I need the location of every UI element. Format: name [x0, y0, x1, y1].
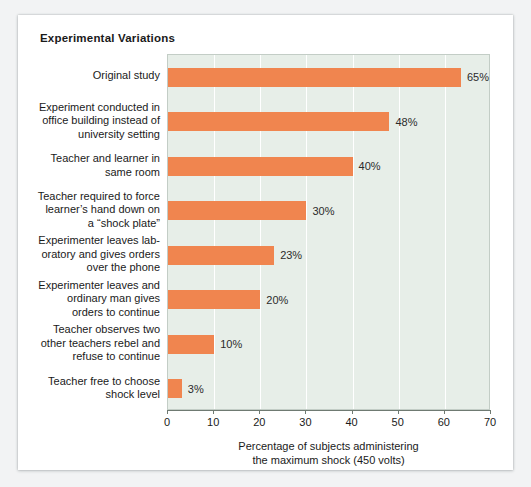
- bar: [168, 157, 353, 176]
- x-axis-tick: [444, 410, 445, 414]
- chart-title: Experimental Variations: [40, 32, 175, 44]
- category-axis-labels: Original studyExperiment conducted inoff…: [32, 54, 160, 410]
- category-label: Experimenter leaves andordinary man give…: [32, 279, 160, 320]
- x-axis-tick-label: 40: [345, 416, 357, 428]
- x-axis-tick: [305, 410, 306, 414]
- bar: [168, 201, 306, 220]
- x-axis-tick: [352, 410, 353, 414]
- x-axis-tick-label: 60: [438, 416, 450, 428]
- bar: [168, 112, 389, 131]
- category-label: Teacher free to chooseshock level: [32, 374, 160, 401]
- x-axis-tick: [167, 410, 168, 414]
- bar-row: 3%: [168, 379, 489, 398]
- bar: [168, 68, 461, 87]
- bar-row: 40%: [168, 157, 489, 176]
- bar-row: 48%: [168, 112, 489, 131]
- category-label: Teacher observes twoother teachers rebel…: [32, 323, 160, 364]
- x-axis-tick-label: 0: [164, 416, 170, 428]
- category-label: Experimenter leaves lab-oratory and give…: [32, 234, 160, 275]
- x-axis-title: Percentage of subjects administeringthe …: [167, 440, 490, 467]
- bar-value-label: 65%: [467, 71, 489, 83]
- bar-value-label: 40%: [359, 160, 381, 172]
- x-axis-tick-label: 70: [484, 416, 496, 428]
- x-axis-tick-label: 20: [253, 416, 265, 428]
- bar-value-label: 3%: [188, 383, 204, 395]
- x-axis-tick: [490, 410, 491, 414]
- x-axis-tick: [259, 410, 260, 414]
- bar-value-label: 48%: [395, 116, 417, 128]
- bar-row: 10%: [168, 335, 489, 354]
- bar-series: 65%48%40%30%23%20%10%3%: [168, 55, 489, 409]
- x-axis: 010203040506070: [167, 410, 490, 411]
- bar: [168, 290, 260, 309]
- x-axis-tick-label: 10: [207, 416, 219, 428]
- bar-value-label: 20%: [266, 294, 288, 306]
- bar-row: 30%: [168, 201, 489, 220]
- page-background: Experimental Variations Original studyEx…: [0, 0, 531, 487]
- bar-value-label: 10%: [220, 338, 242, 350]
- category-label: Teacher required to forcelearner’s hand …: [32, 190, 160, 231]
- bar: [168, 335, 214, 354]
- bar-row: 23%: [168, 246, 489, 265]
- category-label: Original study: [32, 70, 160, 84]
- plot-area: 65%48%40%30%23%20%10%3%: [167, 54, 490, 410]
- x-axis-tick-label: 50: [392, 416, 404, 428]
- x-axis-tick: [213, 410, 214, 414]
- chart-card: Experimental Variations Original studyEx…: [18, 15, 513, 470]
- bar-row: 65%: [168, 68, 489, 87]
- x-axis-tick-label: 30: [299, 416, 311, 428]
- category-label: Experiment conducted inoffice building i…: [32, 101, 160, 142]
- bar-value-label: 30%: [312, 205, 334, 217]
- bar-value-label: 23%: [280, 249, 302, 261]
- bar-row: 20%: [168, 290, 489, 309]
- category-label: Teacher and learner insame room: [32, 152, 160, 179]
- x-axis-tick: [398, 410, 399, 414]
- bar: [168, 246, 274, 265]
- bar: [168, 379, 182, 398]
